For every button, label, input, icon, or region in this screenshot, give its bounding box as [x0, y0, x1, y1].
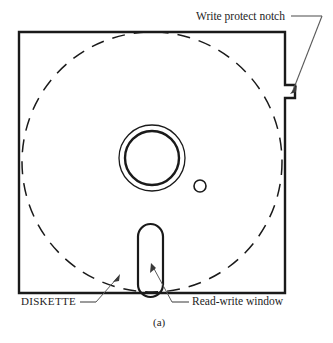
leader-write-protect-diagonal [292, 16, 322, 93]
hub-inner-ring [125, 131, 179, 185]
label-read-write-window: Read-write window [192, 296, 283, 308]
read-write-slot [138, 224, 163, 297]
figure-container: Write protect notch DISKETTE Read-write … [0, 0, 333, 343]
label-diskette: DISKETTE [21, 296, 76, 307]
jacket-square [19, 32, 295, 293]
figure-caption: (a) [153, 317, 165, 328]
dashed-media-circle [22, 32, 282, 292]
index-hole [194, 180, 206, 192]
diskette-diagram [0, 0, 333, 343]
hub-outer-ring [119, 125, 185, 191]
label-write-protect-notch: Write protect notch [196, 11, 285, 23]
leader-diskette-arrowhead [113, 274, 120, 282]
